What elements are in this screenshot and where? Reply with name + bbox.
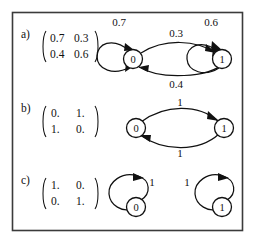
row-a-self-loop-1-label: 0.6: [204, 16, 218, 28]
row-c-self-loop-0-label: 1: [149, 176, 155, 188]
row-c-matrix-cell-0-1: 0.: [76, 179, 85, 191]
row-a-node-state-1-label: 1: [219, 54, 224, 65]
row-a-self-loop-0-label: 0.7: [112, 16, 126, 28]
row-c-node-state-1-label: 1: [219, 202, 224, 213]
row-b-node-state-0-label: 0: [133, 123, 138, 134]
row-a-node-state-0-label: 0: [130, 54, 135, 65]
row-b-matrix-cell-1-0: 1.: [51, 123, 60, 135]
row-a-label: a): [21, 28, 30, 41]
row-b-matrix-cell-1-1: 0.: [76, 123, 85, 135]
row-a-matrix-cell-0-1: 0.3: [74, 32, 89, 44]
figure-canvas: a) 0.7 0.3 0.4 0.6 0.7 0.3 0.4: [0, 0, 254, 243]
row-b-matrix-cell-0-1: 1.: [76, 107, 85, 119]
row-c-matrix-cell-1-0: 0.: [51, 195, 60, 207]
row-a-matrix-cell-0-0: 0.7: [50, 32, 65, 44]
row-a-matrix-cell-1-0: 0.4: [50, 48, 65, 60]
row-a-matrix-cell-1-1: 0.6: [74, 48, 89, 60]
row-c-node-state-0-label: 0: [133, 202, 138, 213]
row-b-edge-0-to-1-label: 1: [177, 96, 183, 108]
row-b-node-state-1-label: 1: [221, 123, 226, 134]
row-c-matrix-cell-0-0: 1.: [51, 179, 60, 191]
row-c-matrix-cell-1-1: 1.: [76, 195, 85, 207]
row-a-edge-0-to-1-label: 0.3: [169, 27, 183, 39]
row-c-label: c): [21, 174, 30, 187]
row-a-edge-1-to-0-label: 0.4: [169, 78, 183, 90]
markov-chain-figure: a) 0.7 0.3 0.4 0.6 0.7 0.3 0.4: [0, 0, 254, 243]
row-b-edge-1-to-0-label: 1: [177, 147, 183, 159]
row-b-label: b): [21, 102, 31, 115]
row-b-matrix-cell-0-0: 0.: [51, 107, 60, 119]
row-c-self-loop-1-label: 1: [184, 176, 190, 188]
